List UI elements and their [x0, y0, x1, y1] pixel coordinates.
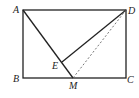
label-c: C — [127, 74, 134, 85]
segment-dm-dashed — [73, 10, 126, 78]
rectangle-abcd — [23, 10, 126, 78]
label-a: A — [12, 4, 20, 15]
label-b: B — [13, 73, 19, 84]
geometry-diagram: A D B C M E — [0, 0, 139, 98]
segment-am — [23, 10, 73, 78]
label-d: D — [127, 5, 136, 16]
label-m: M — [68, 80, 78, 91]
segment-ed — [62, 10, 126, 62]
label-e: E — [51, 60, 58, 71]
